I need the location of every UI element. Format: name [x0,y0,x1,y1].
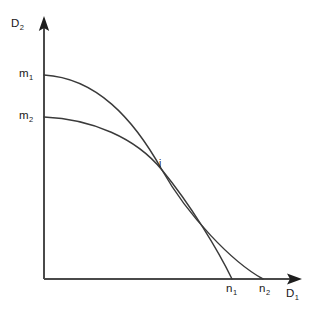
label-n1-subscript: 1 [233,288,237,297]
diagram-svg [0,0,312,312]
label-m1-subscript: 1 [29,73,33,82]
y-axis-label: D2 [11,18,24,30]
x-axis-label: D1 [286,288,299,300]
x-axis-label-subscript: 1 [295,293,299,302]
label-m1: m1 [19,68,33,80]
label-m2-subscript: 2 [29,115,33,124]
curve-m2-n1 [44,117,232,279]
label-n2-text: n [259,282,266,294]
x-axis-label-text: D [286,287,294,299]
y-axis-label-subscript: 2 [20,23,24,32]
y-axis-label-text: D [11,17,19,29]
label-m1-text: m [19,67,29,79]
label-intersection-i: i [159,159,161,169]
label-n1: n1 [226,283,237,295]
label-n2-subscript: 2 [266,288,270,297]
label-m2-text: m [19,109,29,121]
label-m2: m2 [19,110,33,122]
curve-m1-n2 [44,75,263,279]
diagram-canvas: D2 D1 m1 m2 n1 n2 i [0,0,312,312]
label-n1-text: n [226,282,233,294]
label-n2: n2 [259,283,270,295]
